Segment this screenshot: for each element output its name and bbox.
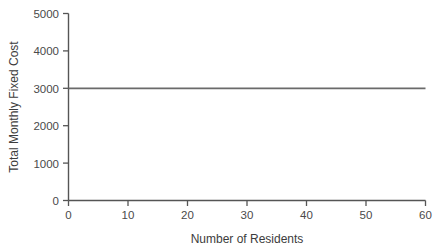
chart-figure: 5000 4000 3000 2000 1000 0 0 10 20 30 40… <box>0 0 443 249</box>
x-tick-label-50: 50 <box>360 209 373 221</box>
x-axis-title: Number of Residents <box>191 232 304 246</box>
y-tick-label-3000: 3000 <box>33 83 59 95</box>
x-tick-label-30: 30 <box>241 209 254 221</box>
fixed-cost-line-chart: 5000 4000 3000 2000 1000 0 0 10 20 30 40… <box>0 0 443 249</box>
x-tick-label-0: 0 <box>65 209 71 221</box>
y-tick-label-1000: 1000 <box>33 158 59 170</box>
x-tick-label-40: 40 <box>300 209 313 221</box>
y-axis-title: Total Monthly Fixed Cost <box>7 41 21 173</box>
y-tick-label-4000: 4000 <box>33 45 59 57</box>
x-tick-label-20: 20 <box>181 209 194 221</box>
x-tick-label-60: 60 <box>419 209 432 221</box>
y-tick-label-0: 0 <box>53 195 59 207</box>
y-tick-label-5000: 5000 <box>33 8 59 20</box>
x-tick-label-10: 10 <box>122 209 135 221</box>
y-tick-label-2000: 2000 <box>33 120 59 132</box>
